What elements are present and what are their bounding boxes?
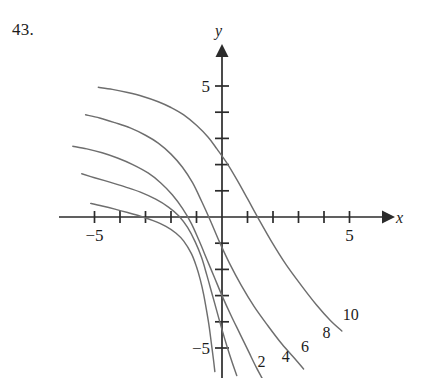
curve-label-4: 4 — [282, 348, 290, 365]
x-axis-arrowhead — [382, 211, 395, 224]
y-tick-label: −5 — [192, 339, 210, 358]
y-tick-label: 5 — [202, 77, 211, 96]
y-axis-arrowhead — [216, 44, 229, 57]
curve-10 — [98, 87, 342, 331]
plot-labels: x y −555−5246810 — [85, 22, 403, 370]
curve-label-6: 6 — [301, 338, 309, 355]
curve-6 — [73, 146, 263, 378]
curve-family — [73, 87, 342, 378]
y-axis-label: y — [213, 22, 223, 40]
x-axis-label: x — [395, 209, 403, 226]
plot-svg: x y −555−5246810 — [0, 0, 428, 378]
figure-page: 43. x y −555−5246810 — [0, 0, 428, 378]
curve-label-10: 10 — [343, 306, 359, 323]
curve-label-8: 8 — [323, 324, 331, 341]
x-tick-label: −5 — [85, 226, 103, 245]
axes — [59, 44, 395, 378]
x-tick-label: 5 — [345, 226, 354, 245]
curve-label-2: 2 — [258, 353, 266, 370]
coordinate-plot: x y −555−5246810 — [0, 0, 428, 378]
